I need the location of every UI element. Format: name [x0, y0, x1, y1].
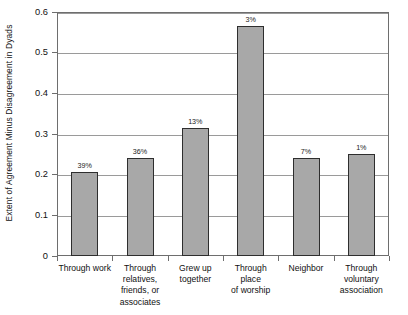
x-axis-category-line: association — [335, 285, 388, 296]
x-axis-tick-mark — [389, 256, 390, 261]
bar[interactable] — [71, 172, 98, 256]
bar-value-label: 1% — [341, 144, 381, 152]
x-axis-category-line: relatives, — [113, 274, 166, 285]
bar-value-label: 13% — [175, 118, 215, 126]
bar-value-label: 7% — [286, 148, 326, 156]
y-axis-tick-label: 0.4 — [0, 88, 48, 98]
x-axis-category-line: Through place — [224, 263, 277, 285]
chart-figure: Extent of Agreement Minus Disagreement i… — [0, 0, 408, 315]
bar[interactable] — [348, 154, 375, 256]
bar[interactable] — [182, 128, 209, 256]
x-axis-category-label: Through work — [58, 263, 111, 274]
y-axis-tick-label: 0.3 — [0, 129, 48, 139]
gridline — [58, 216, 388, 217]
x-axis-tick-mark — [278, 256, 279, 261]
cut-off-caption — [60, 305, 360, 314]
y-axis-tick-label: 0 — [0, 251, 48, 261]
bar[interactable] — [293, 158, 320, 256]
x-axis-tick-mark — [223, 256, 224, 261]
bar[interactable] — [237, 26, 264, 256]
gridline — [58, 94, 388, 95]
y-axis-tick-label: 0.1 — [0, 210, 48, 220]
x-axis-category-line: Neighbor — [279, 263, 332, 274]
y-axis-title: Extent of Agreement Minus Disagreement i… — [2, 7, 16, 239]
x-axis-category-line: Through — [113, 263, 166, 274]
x-axis-tick-mark — [168, 256, 169, 261]
gridline — [58, 13, 388, 14]
x-axis-category-line: Through work — [58, 263, 111, 274]
x-axis-tick-mark — [334, 256, 335, 261]
bar-value-label: 39% — [65, 162, 105, 170]
gridline — [58, 135, 388, 136]
x-axis-tick-mark — [57, 256, 58, 261]
x-axis-category-line: of worship — [224, 285, 277, 296]
plot-area — [57, 12, 389, 256]
x-axis-category-line: Grew up — [169, 263, 222, 274]
y-axis-tick-label: 0.5 — [0, 47, 48, 57]
x-axis-category-line: Through — [335, 263, 388, 274]
x-axis-category-line: friends, or — [113, 285, 166, 296]
y-axis-tick-label: 0.2 — [0, 169, 48, 179]
x-axis-category-line: together — [169, 274, 222, 285]
gridline — [58, 53, 388, 54]
x-axis-category-label: Neighbor — [279, 263, 332, 274]
y-axis-tick-label: 0.6 — [0, 7, 48, 17]
x-axis-category-line: voluntary — [335, 274, 388, 285]
x-axis-tick-mark — [112, 256, 113, 261]
bar-value-label: 36% — [120, 148, 160, 156]
x-axis-category-label: Through placeof worship — [224, 263, 277, 297]
x-axis-category-label: Grew uptogether — [169, 263, 222, 285]
x-axis-category-label: Throughrelatives,friends, orassociates — [113, 263, 166, 308]
gridline — [58, 175, 388, 176]
x-axis-category-label: Throughvoluntaryassociation — [335, 263, 388, 297]
bar-value-label: 3% — [231, 16, 271, 24]
bar[interactable] — [127, 158, 154, 256]
